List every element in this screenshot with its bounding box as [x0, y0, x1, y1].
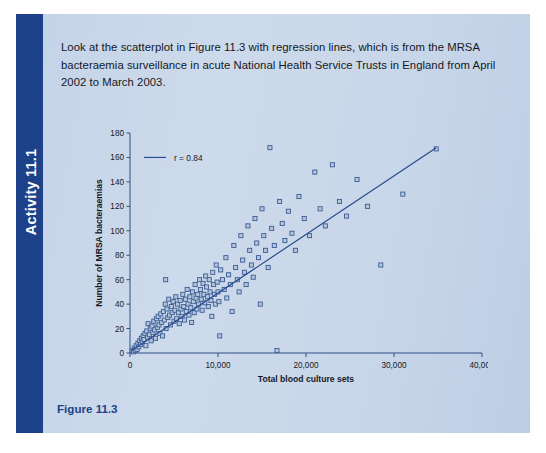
data-point [181, 292, 185, 296]
regression-line [132, 148, 436, 351]
data-point [246, 224, 250, 228]
data-point [293, 248, 297, 252]
data-point [220, 278, 224, 282]
activity-label: Activity 11.1 [23, 82, 39, 302]
data-point [146, 322, 150, 326]
y-tick-label: 140 [110, 178, 124, 187]
scatterplot-svg: 020406080100120140160180010,00020,00030,… [88, 110, 488, 395]
data-point [161, 334, 165, 338]
x-tick-label: 10,000 [205, 361, 230, 370]
data-point [149, 339, 153, 343]
data-point [210, 314, 214, 318]
data-point [171, 300, 175, 304]
data-point [196, 292, 200, 296]
data-point [198, 287, 202, 291]
data-point [302, 217, 306, 221]
data-point [232, 243, 236, 247]
data-point [355, 177, 359, 181]
data-point [163, 302, 167, 306]
data-point [164, 278, 168, 282]
data-point [177, 322, 181, 326]
data-point [280, 221, 284, 225]
data-point [205, 285, 209, 289]
x-tick-label: 0 [128, 361, 133, 370]
data-point [260, 207, 264, 211]
data-point [272, 243, 276, 247]
data-point [344, 214, 348, 218]
data-point [193, 283, 197, 287]
data-point [263, 248, 267, 252]
data-point [262, 234, 266, 238]
data-point [242, 270, 246, 274]
data-point [153, 336, 157, 340]
data-point [253, 217, 257, 221]
data-point [178, 298, 182, 302]
data-point [165, 307, 169, 311]
data-point [188, 295, 192, 299]
data-point [190, 290, 194, 294]
data-point [183, 318, 187, 322]
data-point [275, 349, 279, 353]
data-point [189, 306, 193, 310]
data-point [286, 209, 290, 213]
y-tick-label: 180 [110, 129, 124, 138]
data-point [227, 273, 231, 277]
x-tick-label: 20,000 [293, 361, 318, 370]
data-point [167, 297, 171, 301]
data-point [225, 296, 229, 300]
data-point [234, 265, 238, 269]
data-point [318, 207, 322, 211]
y-axis-title: Number of MRSA bacteraemias [94, 179, 104, 307]
data-point [401, 192, 405, 196]
data-point [183, 297, 187, 301]
x-axis-title: Total blood culture sets [258, 374, 355, 384]
data-point [256, 256, 260, 260]
x-tick-label: 40,000 [469, 361, 488, 370]
data-point [248, 248, 252, 252]
data-point [366, 204, 370, 208]
data-point [239, 234, 243, 238]
x-tick-label: 30,000 [381, 361, 406, 370]
data-point [185, 287, 189, 291]
y-tick-label: 160 [110, 153, 124, 162]
data-point [182, 305, 186, 309]
data-point [208, 290, 212, 294]
axis-labels-layer: 020406080100120140160180010,00020,00030,… [94, 129, 488, 384]
data-point [337, 199, 341, 203]
data-point [297, 195, 301, 199]
regression-line-layer [132, 148, 436, 351]
data-point [174, 295, 178, 299]
data-point [219, 268, 223, 272]
data-point [237, 290, 241, 294]
data-point [244, 283, 248, 287]
data-point [290, 231, 294, 235]
data-point [379, 263, 383, 267]
data-point [224, 256, 228, 260]
data-point [283, 239, 287, 243]
data-point [251, 275, 255, 279]
activity-panel: Activity 11.1 Look at the scatterplot in… [16, 14, 530, 433]
data-point [217, 300, 221, 304]
data-point [144, 344, 148, 348]
data-point [230, 309, 234, 313]
screenshot-root: Activity 11.1 Look at the scatterplot in… [0, 0, 546, 453]
figure-caption: Figure 11.3 [57, 402, 118, 415]
y-tick-label: 40 [115, 300, 125, 309]
data-point [266, 265, 270, 269]
data-point [218, 334, 222, 338]
data-point [214, 263, 218, 267]
data-point [249, 263, 253, 267]
data-point [323, 224, 327, 228]
data-point [200, 308, 204, 312]
activity-sidebar: Activity 11.1 [16, 14, 43, 433]
y-tick-label: 60 [115, 276, 125, 285]
data-point [241, 258, 245, 262]
y-tick-label: 0 [119, 349, 124, 358]
data-point [190, 320, 194, 324]
chart-legend: r = 0.84 [144, 153, 203, 163]
scatterplot-figure: 020406080100120140160180010,00020,00030,… [88, 110, 488, 395]
data-point [207, 278, 211, 282]
y-tick-label: 120 [110, 202, 124, 211]
data-point [255, 241, 259, 245]
activity-intro-text: Look at the scatterplot in Figure 11.3 w… [61, 39, 511, 92]
